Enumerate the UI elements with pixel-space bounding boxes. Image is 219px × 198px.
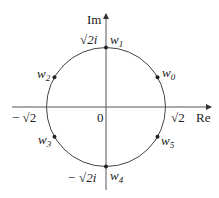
tick-im-neg: − √2i: [67, 170, 97, 185]
tick-re-neg: − √2: [12, 110, 36, 125]
label-w0: w0: [162, 65, 176, 82]
label-w5: w5: [161, 133, 175, 150]
label-w1: w1: [110, 32, 123, 49]
label-w3: w3: [38, 132, 52, 149]
point-w4: [104, 165, 108, 169]
re-axis-label: Re: [196, 110, 211, 125]
label-w4: w4: [110, 168, 124, 185]
point-w0: [156, 75, 160, 79]
tick-im-pos: √2i: [80, 32, 98, 47]
point-w2: [53, 75, 57, 79]
tick-re-pos: √2: [171, 110, 185, 125]
im-axis-label: Im: [87, 12, 101, 27]
point-w5: [156, 135, 160, 139]
origin-label: 0: [97, 110, 104, 125]
point-w1: [104, 46, 108, 50]
point-w3: [53, 135, 57, 139]
complex-plane-diagram: Im Re 0 √2 − √2 √2i − √2i w1 w0 w2 w3 w4…: [0, 0, 219, 198]
label-w2: w2: [37, 66, 51, 83]
